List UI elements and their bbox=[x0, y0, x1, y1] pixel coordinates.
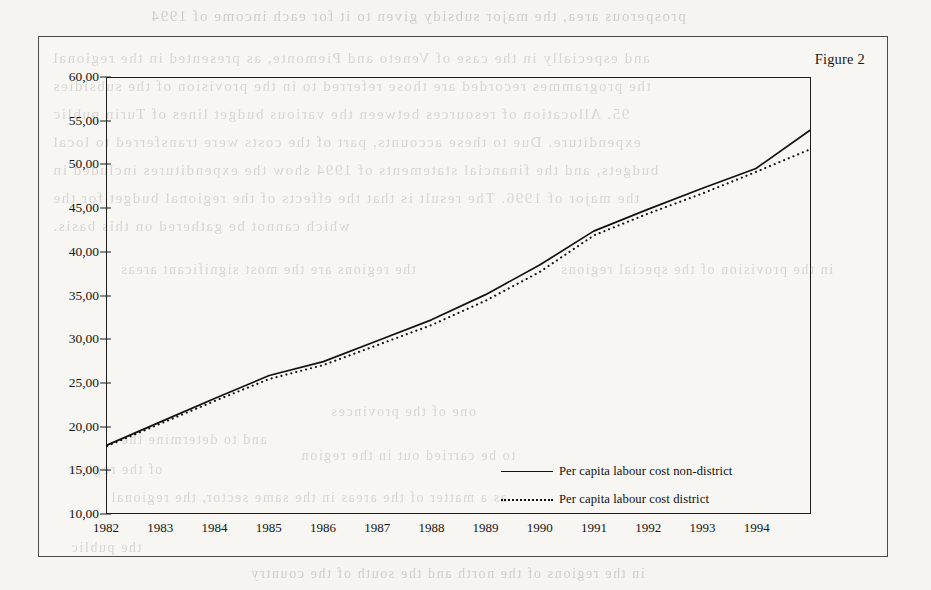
y-tick-label: 15,00 bbox=[69, 462, 99, 478]
x-tick-label: 1991 bbox=[581, 520, 607, 536]
x-tick-label: 1986 bbox=[310, 520, 336, 536]
y-tick-label: 20,00 bbox=[69, 419, 99, 435]
y-tick-label: 60,00 bbox=[69, 69, 99, 85]
x-axis: 1982198319841985198619871988198919901991… bbox=[106, 520, 811, 542]
legend-item: Per capita labour cost non-district bbox=[501, 460, 732, 482]
x-tick-label: 1985 bbox=[256, 520, 282, 536]
x-tick-label: 1983 bbox=[147, 520, 173, 536]
plot-area: Per capita labour cost non-district Per … bbox=[106, 77, 811, 514]
x-tick-label: 1993 bbox=[690, 520, 716, 536]
bleedthrough-line: in the regions of the north and the sout… bbox=[250, 566, 645, 582]
x-tick-label: 1990 bbox=[527, 520, 553, 536]
y-axis: 60,0055,0050,0045,0040,0035,0030,0025,00… bbox=[39, 77, 99, 514]
series-line-district bbox=[107, 149, 810, 446]
scanned-page: prosperous area, the major subsidy given… bbox=[0, 0, 931, 590]
legend-line-solid-icon bbox=[501, 466, 553, 476]
y-tick-label: 35,00 bbox=[69, 288, 99, 304]
legend-line-dotted-icon bbox=[501, 494, 553, 504]
y-tick-label: 50,00 bbox=[69, 156, 99, 172]
chart-lines bbox=[107, 78, 810, 513]
x-tick-label: 1988 bbox=[418, 520, 444, 536]
x-tick-label: 1989 bbox=[473, 520, 499, 536]
y-tick-label: 40,00 bbox=[69, 244, 99, 260]
y-tick-label: 45,00 bbox=[69, 200, 99, 216]
figure-outer-border: Figure 2 60,0055,0050,0045,0040,0035,003… bbox=[38, 36, 888, 557]
x-tick-label: 1987 bbox=[364, 520, 390, 536]
series-line-non-district bbox=[107, 130, 810, 445]
y-tick-label: 25,00 bbox=[69, 375, 99, 391]
x-tick-label: 1984 bbox=[201, 520, 227, 536]
legend-item: Per capita labour cost district bbox=[501, 488, 732, 510]
y-tick-label: 30,00 bbox=[69, 331, 99, 347]
bleedthrough-line: prosperous area, the major subsidy given… bbox=[150, 8, 686, 25]
chart-legend: Per capita labour cost non-district Per … bbox=[501, 460, 732, 516]
figure-caption: Figure 2 bbox=[815, 51, 865, 68]
x-tick-label: 1982 bbox=[93, 520, 119, 536]
legend-label-district: Per capita labour cost district bbox=[559, 488, 709, 510]
y-tick-label: 55,00 bbox=[69, 113, 99, 129]
legend-label-non-district: Per capita labour cost non-district bbox=[559, 460, 732, 482]
x-tick-label: 1994 bbox=[744, 520, 770, 536]
x-tick-label: 1992 bbox=[635, 520, 661, 536]
